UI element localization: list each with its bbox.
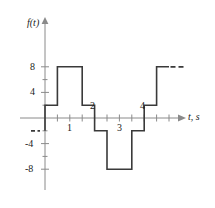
plot-canvas [0,0,215,208]
x-axis-arrow-icon [178,115,186,122]
axes-group [20,17,186,190]
x-axis-label: t, s [188,112,200,122]
y-tick-label-4: 4 [30,87,35,97]
x-tick-label-3: 3 [117,123,122,133]
y-axis-arrow-icon [42,17,49,24]
y-tick-label-minus-8: -8 [25,164,33,174]
waveform-figure: f(t) t, s 8 4 -4 -8 1 2 3 4 [0,0,215,208]
y-tick-label-8: 8 [30,62,35,72]
y-tick-label-minus-4: -4 [25,139,33,149]
y-axis-label: f(t) [27,18,39,28]
x-tick-label-1: 1 [67,123,72,133]
x-tick-label-4: 4 [140,101,145,111]
x-tick-label-2: 2 [90,101,95,111]
